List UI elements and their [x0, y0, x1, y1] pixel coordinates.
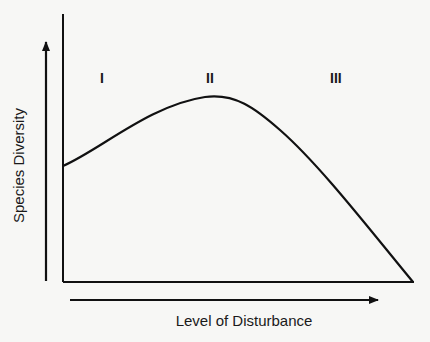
region-label-1: I	[100, 70, 104, 86]
diagram-canvas	[0, 0, 430, 342]
diversity-curve	[63, 96, 413, 282]
x-axis-label: Level of Disturbance	[0, 312, 430, 329]
region-label-3: III	[330, 70, 342, 86]
region-label-2: II	[206, 70, 214, 86]
y-axis-label: Species Diversity	[10, 86, 27, 246]
